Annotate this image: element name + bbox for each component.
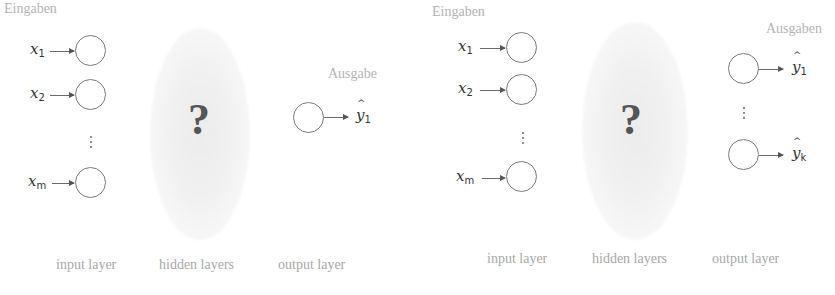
- output-arrow-1: [759, 69, 783, 70]
- input-arrow-1: [480, 48, 505, 49]
- vertical-ellipsis: [522, 132, 524, 147]
- output-arrow-1: [324, 117, 348, 118]
- input-layer-label: input layer: [487, 251, 547, 267]
- output-layer-label: output layer: [278, 257, 345, 273]
- input-arrow-m: [52, 183, 74, 184]
- output-node-k: [728, 139, 759, 170]
- input-node-2: [506, 74, 537, 105]
- input-label-xm: xm: [28, 172, 46, 191]
- vertical-ellipsis-outputs: [743, 107, 745, 122]
- input-node-2: [75, 79, 106, 110]
- output-label-y1: y1: [792, 58, 807, 77]
- output-label-yk: yk: [792, 144, 806, 163]
- output-node-1: [293, 102, 324, 133]
- hidden-layers-label: hidden layers: [592, 251, 667, 267]
- input-label-x1: x1: [30, 40, 45, 59]
- input-label-x2: x2: [30, 84, 45, 103]
- output-heading: Ausgabe: [328, 66, 377, 82]
- inputs-heading: Eingaben: [4, 1, 57, 17]
- question-mark-icon: ?: [620, 94, 642, 145]
- input-node-1: [75, 35, 106, 66]
- input-node-m: [75, 167, 106, 198]
- input-arrow-m: [482, 178, 505, 179]
- multi-output-network-diagram: Eingaben x1 x2 xm ? Ausgaben y1 yk input…: [420, 0, 835, 295]
- input-label-xm: xm: [456, 167, 474, 186]
- vertical-ellipsis: [90, 136, 92, 151]
- single-output-network-diagram: Eingaben x1 x2 xm ? Ausgabe y1 input lay…: [0, 0, 420, 295]
- inputs-heading: Eingaben: [432, 4, 485, 20]
- input-node-1: [506, 32, 537, 63]
- output-node-1: [728, 53, 759, 84]
- question-mark-icon: ?: [188, 94, 210, 145]
- input-arrow-2: [50, 95, 74, 96]
- input-arrow-1: [50, 51, 74, 52]
- input-arrow-2: [480, 90, 505, 91]
- outputs-heading: Ausgaben: [766, 21, 822, 37]
- input-node-m: [506, 161, 537, 192]
- output-label-y1: y1: [356, 106, 371, 125]
- input-label-x2: x2: [458, 79, 473, 98]
- output-arrow-k: [759, 155, 783, 156]
- output-layer-label: output layer: [712, 251, 779, 267]
- hidden-layers-label: hidden layers: [159, 257, 234, 273]
- input-label-x1: x1: [458, 37, 473, 56]
- input-layer-label: input layer: [56, 257, 116, 273]
